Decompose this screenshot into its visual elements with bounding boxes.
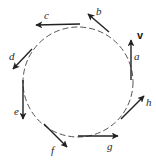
velocity-vector-e: e [14,80,23,119]
vector-label: d [9,50,15,62]
arrow-icon [121,96,144,119]
velocity-vector-g: g [78,136,118,152]
vector-label: f [51,144,56,156]
circular-motion-diagram: abcdefgh v [0,0,156,160]
velocity-vector-c: c [36,9,80,25]
arrow-icon [13,49,32,69]
vector-label: h [146,96,152,108]
velocity-vector-h: h [121,96,152,119]
vector-label: c [44,9,49,21]
velocity-vector-b: b [88,5,109,32]
arrow-icon [36,24,80,25]
velocity-vectors: abcdefgh [9,5,152,156]
vector-label: g [107,140,113,152]
dashed-circular-path [23,27,133,137]
vector-label: b [96,5,102,17]
velocity-symbol-label: v [137,29,144,41]
velocity-vector-d: d [9,49,32,69]
vector-label: e [14,105,19,117]
vector-label: a [134,50,140,62]
velocity-vector-f: f [44,124,67,156]
